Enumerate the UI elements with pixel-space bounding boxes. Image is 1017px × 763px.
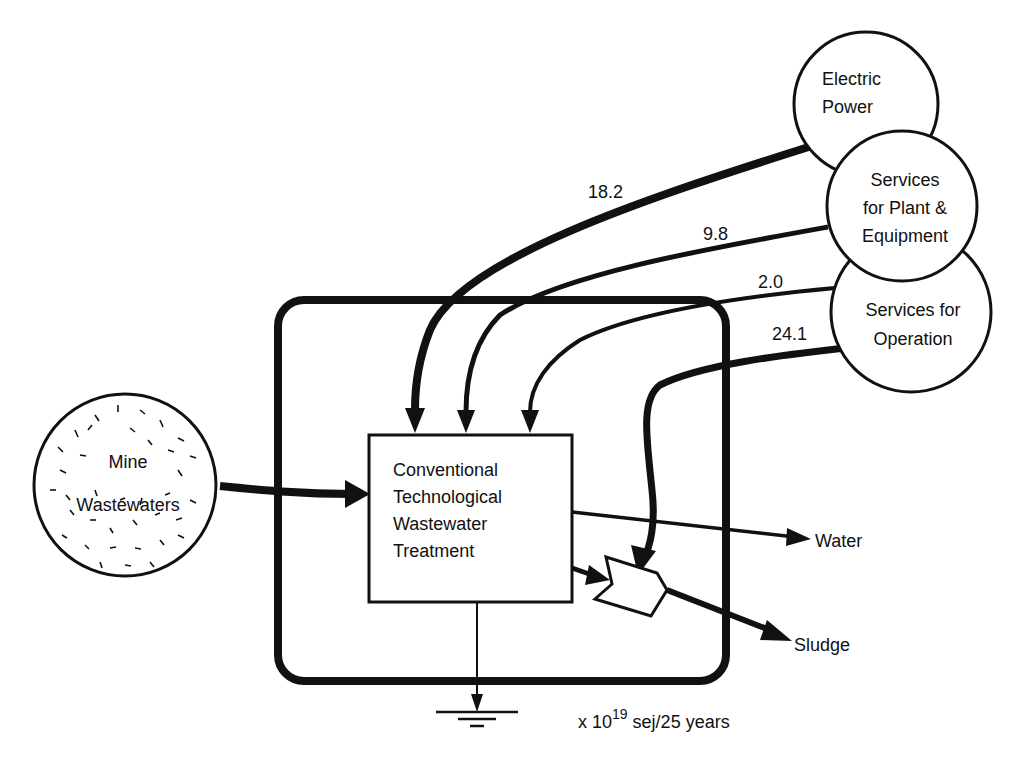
source-label-line2: Wastewaters xyxy=(76,495,179,515)
interaction-symbol xyxy=(595,557,667,616)
wastewater-inflow-arrowhead xyxy=(345,480,370,508)
process-label-line2: Technological xyxy=(393,487,502,507)
operation-to-sludge-value: 24.1 xyxy=(772,324,807,344)
sludge-outflow xyxy=(667,590,772,631)
operation-label-line2: Operation xyxy=(873,329,952,349)
operation-flow xyxy=(530,288,835,412)
ground-icon xyxy=(436,712,518,726)
units-caption: x 1019 sej/25 years xyxy=(578,706,730,732)
emergy-diagram: Mine Wastewaters Conventional Technologi… xyxy=(0,0,1017,763)
process-to-interaction-arrowhead xyxy=(585,565,610,585)
plant-equipment-label-line3: Equipment xyxy=(862,226,948,246)
plant-equipment-source: Services for Plant & Equipment xyxy=(827,131,977,281)
wastewater-inflow-arrow xyxy=(220,486,352,494)
heat-sink-arrowhead xyxy=(471,694,483,712)
operation-arrowhead xyxy=(521,410,539,433)
source-label-line1: Mine xyxy=(108,452,147,472)
process-box: Conventional Technological Wastewater Tr… xyxy=(369,435,572,602)
mine-wastewaters-source: Mine Wastewaters xyxy=(34,394,216,576)
electric-power-arrowhead xyxy=(405,408,425,433)
operation-to-sludge-flow xyxy=(644,347,855,560)
operation-value: 2.0 xyxy=(758,272,783,292)
process-label-line3: Wastewater xyxy=(393,514,487,534)
plant-equipment-value: 9.8 xyxy=(703,224,728,244)
process-label-line1: Conventional xyxy=(393,460,498,480)
plant-equipment-label-line2: for Plant & xyxy=(863,198,947,218)
electric-power-label-line1: Electric xyxy=(822,69,881,89)
plant-equipment-label-line1: Services xyxy=(870,170,939,190)
process-label-line4: Treatment xyxy=(393,541,474,561)
plant-equipment-arrowhead xyxy=(457,410,475,433)
water-output-label: Water xyxy=(815,531,862,551)
sludge-output-label: Sludge xyxy=(794,635,850,655)
sludge-arrowhead xyxy=(760,620,792,641)
electric-power-label-line2: Power xyxy=(822,97,873,117)
water-arrowhead xyxy=(786,528,811,546)
operation-label-line1: Services for xyxy=(865,300,960,320)
water-outflow xyxy=(572,512,795,537)
electric-power-value: 18.2 xyxy=(588,182,623,202)
